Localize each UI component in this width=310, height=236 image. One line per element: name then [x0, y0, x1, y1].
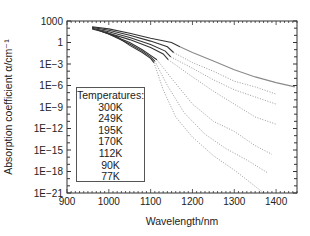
x-tick-label: 1400: [265, 196, 288, 207]
legend: Temperatures: 300K 249K 195K 170K 112K 9…: [76, 87, 145, 182]
x-tick-label: 1300: [223, 196, 246, 207]
y-tick-label: 1E−21: [34, 188, 64, 199]
series-measured-line: [105, 32, 154, 63]
series-extrapolated-line: [174, 53, 277, 95]
y-tick-label: 1E−6: [39, 80, 63, 91]
y-tick-label: 1E−18: [34, 166, 64, 177]
y-tick-label: 1: [57, 37, 63, 48]
y-axis-title: Absorption coefficient α/cm⁻¹: [2, 39, 14, 175]
y-tick-label: 1E−15: [34, 145, 64, 156]
series-extrapolated-line: [168, 60, 276, 125]
legend-title: Temperatures:: [77, 90, 144, 102]
x-tick-labels: 90010001100120013001400: [59, 196, 288, 207]
absorption-chart: 90010001100120013001400 100011E−31E−61E−…: [0, 0, 310, 236]
y-tick-label: 1000: [41, 16, 64, 27]
y-tick-label: 1E−12: [34, 123, 64, 134]
x-axis-title: Wavelength/nm: [146, 215, 219, 227]
x-tick-label: 1000: [98, 196, 121, 207]
x-tick-label: 1200: [181, 196, 204, 207]
x-tick-label: 1100: [140, 196, 162, 207]
y-tick-label: 1E−3: [39, 59, 63, 70]
y-tick-labels: 100011E−31E−61E−91E−121E−151E−181E−21: [34, 16, 64, 199]
y-tick-label: 1E−9: [39, 102, 63, 113]
series-extrapolated-line: [157, 60, 272, 155]
series-extrapolated-line: [154, 63, 264, 193]
legend-item: 112K: [77, 148, 144, 160]
legend-item: 77K: [77, 171, 144, 183]
series-extrapolated-line: [180, 47, 295, 87]
